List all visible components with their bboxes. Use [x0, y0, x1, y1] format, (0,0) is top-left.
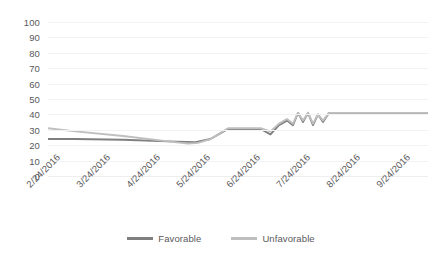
y-axis-tick-label: 20 — [29, 140, 40, 151]
gridline — [48, 53, 428, 54]
y-axis-tick-label: 50 — [29, 94, 40, 105]
y-axis-tick-label: 60 — [29, 78, 40, 89]
y-axis-tick-label: 80 — [29, 47, 40, 58]
gridline — [48, 145, 428, 146]
gridline — [48, 22, 428, 23]
gridline — [48, 84, 428, 85]
gridline — [48, 99, 428, 100]
y-axis-tick-label: 40 — [29, 109, 40, 120]
y-axis: 1009080706050403020100 — [0, 0, 40, 200]
y-axis-tick-label: 10 — [29, 155, 40, 166]
legend-item[interactable]: Unfavorable — [231, 233, 314, 244]
legend-item[interactable]: Favorable — [127, 233, 201, 244]
y-axis-tick-label: 100 — [24, 17, 40, 28]
legend-label: Unfavorable — [262, 233, 314, 244]
chart-legend: FavorableUnfavorable — [0, 228, 442, 248]
y-axis-tick-label: 30 — [29, 124, 40, 135]
gridline — [48, 130, 428, 131]
gridline — [48, 68, 428, 69]
legend-swatch-icon — [231, 237, 257, 240]
gridline — [48, 37, 428, 38]
gridline — [48, 114, 428, 115]
line-chart: 1009080706050403020100 2/24/20163/24/201… — [0, 0, 442, 254]
y-axis-tick-label: 90 — [29, 32, 40, 43]
legend-label: Favorable — [158, 233, 201, 244]
legend-swatch-icon — [127, 237, 153, 240]
y-axis-tick-label: 70 — [29, 63, 40, 74]
